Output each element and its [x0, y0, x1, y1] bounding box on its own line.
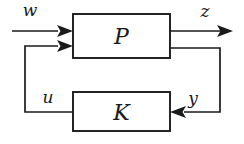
- signal-label-w: w: [23, 0, 38, 20]
- block-controller-label: K: [112, 100, 131, 125]
- block-diagram-svg: P K w z u y: [0, 0, 244, 144]
- arrowhead-y-into-controller: [170, 106, 186, 118]
- signal-label-y: y: [187, 88, 198, 108]
- block-diagram-canvas: P K w z u y: [0, 0, 244, 144]
- signal-label-u: u: [43, 87, 54, 107]
- signal-label-z: z: [200, 1, 211, 21]
- arrowhead-w-into-plant: [57, 25, 73, 37]
- arrowhead-u-into-plant: [57, 40, 73, 52]
- block-plant-label: P: [113, 24, 130, 49]
